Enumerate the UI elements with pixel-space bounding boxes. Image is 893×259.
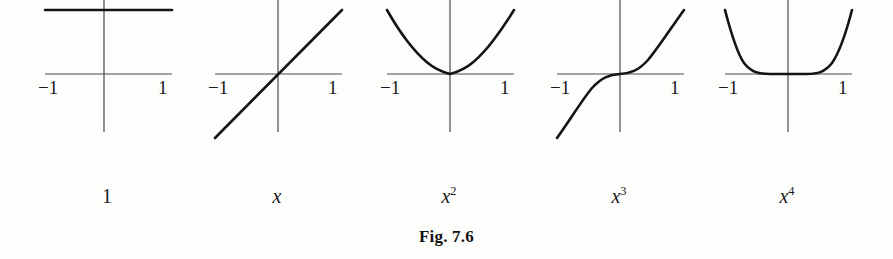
x-tick-label-neg1: −1 — [38, 78, 58, 97]
function-label-exponent: 4 — [788, 184, 794, 198]
function-label-base: x — [611, 185, 620, 207]
graph-panel-square: −1 1 x2 — [364, 0, 534, 180]
x-tick-label-pos1: 1 — [500, 78, 510, 97]
function-label-exponent: 3 — [620, 184, 626, 198]
x-tick-label-neg1: −1 — [550, 78, 570, 97]
function-label-base: 1 — [102, 185, 112, 207]
x-tick-label-pos1: 1 — [838, 78, 848, 97]
function-label-base: x — [273, 185, 282, 207]
x-tick-label-neg1: −1 — [380, 78, 400, 97]
x-tick-label-pos1: 1 — [158, 78, 168, 97]
x-tick-label-neg1: −1 — [718, 78, 738, 97]
function-label-base: x — [441, 185, 450, 207]
graph-panel-linear: −1 1 x — [192, 0, 362, 180]
x-tick-label-neg1: −1 — [208, 78, 228, 97]
graph-panel-cube: −1 1 x3 — [534, 0, 704, 180]
function-label-base: x — [779, 185, 788, 207]
figure-7-6: −1 1 1 −1 1 x −1 1 x2 −1 1 x3 — [0, 0, 893, 259]
graph-panel-constant: −1 1 1 — [22, 0, 192, 180]
function-label-constant: 1 — [22, 186, 192, 206]
x-tick-label-pos1: 1 — [670, 78, 680, 97]
function-label-linear: x — [192, 186, 362, 206]
function-label-quartic: x4 — [702, 186, 872, 206]
function-label-exponent: 2 — [450, 184, 456, 198]
function-label-cube: x3 — [534, 186, 704, 206]
graph-panel-quartic: −1 1 x4 — [702, 0, 872, 180]
x-tick-label-pos1: 1 — [328, 78, 338, 97]
figure-caption: Fig. 7.6 — [0, 227, 893, 247]
function-label-square: x2 — [364, 186, 534, 206]
